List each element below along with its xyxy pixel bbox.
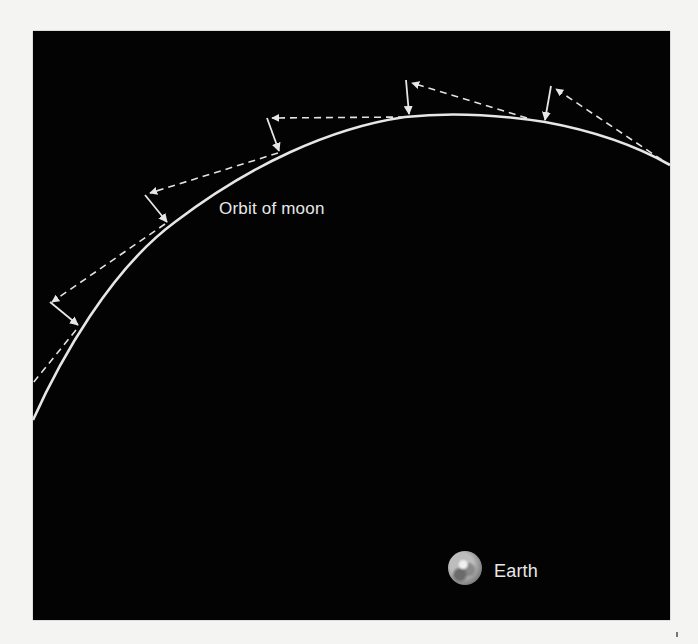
velocity-arrow-2 xyxy=(412,83,527,118)
gravity-arrow-2 xyxy=(406,80,409,114)
earth-globe-icon xyxy=(448,551,482,585)
earth-label: Earth xyxy=(494,561,538,582)
velocity-arrow-4 xyxy=(150,153,278,193)
velocity-arrow-1 xyxy=(556,89,662,160)
orbit-diagram xyxy=(0,0,698,644)
gravity-arrow-5 xyxy=(50,302,78,325)
orbit-path xyxy=(33,115,670,420)
velocity-vectors xyxy=(33,83,662,383)
velocity-arrow-3 xyxy=(272,117,405,118)
page-mark xyxy=(676,632,678,637)
gravity-arrow-4 xyxy=(145,195,167,222)
orbit-label: Orbit of moon xyxy=(219,199,325,219)
gravity-arrow-3 xyxy=(267,118,279,151)
gravity-arrow-1 xyxy=(545,86,551,120)
